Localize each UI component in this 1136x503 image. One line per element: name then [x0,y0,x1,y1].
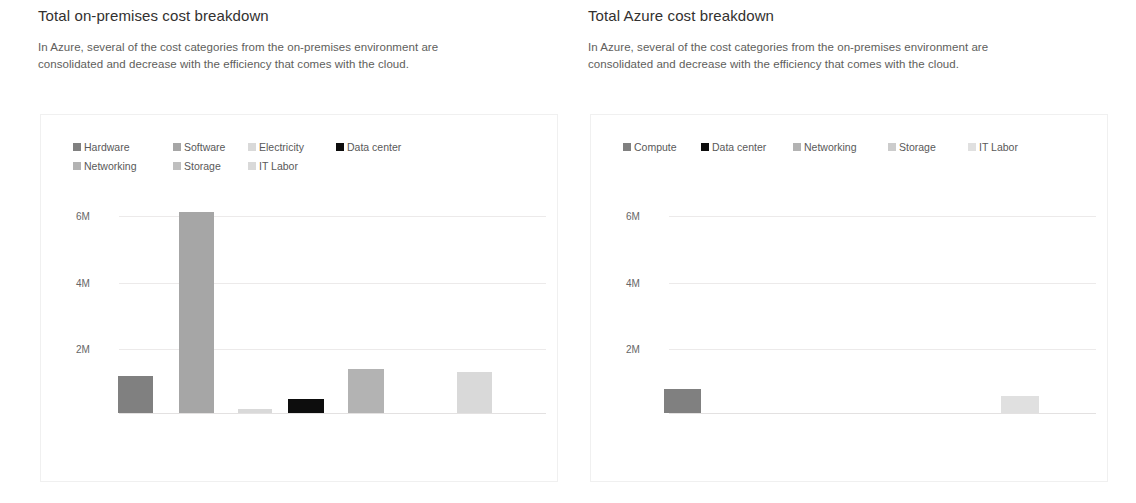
chart-card-azure: ComputeData centerNetworkingStorageIT La… [590,114,1108,482]
page-title-azure: Total Azure cost breakdown [588,0,1108,26]
onprem-bar-software[interactable] [179,212,214,413]
onprem-bar-networking[interactable] [348,369,384,413]
panel-subtitle-azure: In Azure, several of the cost categories… [588,39,1038,73]
panel-azure: Total Azure cost breakdown In Azure, sev… [588,0,1108,85]
onprem-bars-layer [41,115,557,413]
onprem-bar-electricity[interactable] [238,409,272,413]
azure-bar-compute[interactable] [664,389,701,413]
chart-plot-azure: 2M4M6M [591,115,1107,481]
onprem-bar-hardware[interactable] [118,376,153,413]
panel-on-premises: Total on-premises cost breakdown In Azur… [38,0,558,85]
azure-bars-layer [591,115,1107,413]
azure-bar-it-labor[interactable] [1001,396,1039,413]
onprem-bar-it-labor[interactable] [457,372,492,413]
chart-plot-on-premises: 2M4M6M [41,115,557,481]
page-title-on-premises: Total on-premises cost breakdown [38,0,558,26]
chart-card-on-premises: HardwareSoftwareElectricityData centerNe… [40,114,558,482]
chart-baseline [119,413,546,414]
onprem-bar-data-center[interactable] [288,399,324,413]
chart-baseline [669,413,1096,414]
panel-subtitle-on-premises: In Azure, several of the cost categories… [38,39,488,73]
